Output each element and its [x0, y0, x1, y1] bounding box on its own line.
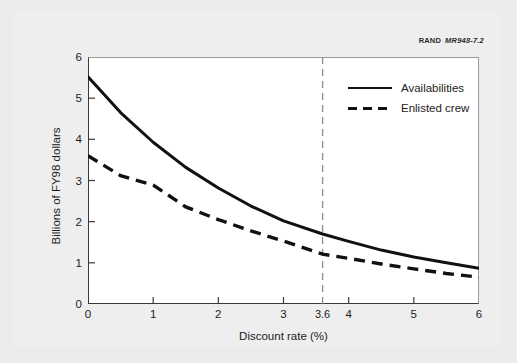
x-tick-label: 6 [467, 308, 491, 320]
x-axis-ticks: 0 1 2 3 4 5 6 [88, 308, 479, 324]
x-tick-label: 3 [272, 308, 296, 320]
x-tick-label: 2 [206, 308, 230, 320]
x-axis-title: Discount rate (%) [88, 330, 479, 342]
y-tick-label: 5 [60, 92, 82, 104]
figure-id-text: MR948-7.2 [445, 36, 484, 45]
y-tick-label: 3 [60, 175, 82, 187]
plot-area: 3.6 Availabilities Enlisted crew [88, 57, 479, 304]
reference-vline-label: 3.6 [315, 308, 330, 320]
line-solid-icon [348, 82, 392, 94]
legend-item-availabilities: Availabilities [348, 79, 469, 96]
x-tick-marks [153, 297, 414, 304]
rand-credit-line: RANDMR948-7.2 [419, 36, 484, 45]
y-tick-label: 1 [60, 257, 82, 269]
chart-legend: Availabilities Enlisted crew [348, 79, 469, 119]
y-tick-marks [88, 98, 95, 263]
legend-label: Availabilities [401, 82, 464, 94]
rand-logo-text: RAND [419, 36, 441, 45]
legend-item-enlisted-crew: Enlisted crew [348, 99, 469, 116]
y-tick-label: 2 [60, 216, 82, 228]
y-axis-ticks: 0 1 2 3 4 5 6 [58, 57, 82, 304]
figure-container: RANDMR948-7.2 Billions of FY98 dollars 0… [0, 0, 517, 363]
line-dashed-icon [348, 102, 392, 114]
x-tick-label: 1 [141, 308, 165, 320]
x-tick-label: 5 [402, 308, 426, 320]
y-tick-label: 4 [60, 133, 82, 145]
legend-label: Enlisted crew [401, 102, 469, 114]
figure-panel: RANDMR948-7.2 Billions of FY98 dollars 0… [13, 12, 500, 347]
x-tick-label: 0 [76, 308, 100, 320]
x-tick-label: 4 [337, 308, 361, 320]
y-tick-label: 6 [60, 51, 82, 63]
